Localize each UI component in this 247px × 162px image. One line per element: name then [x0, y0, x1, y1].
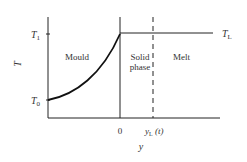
region-label-solid: Solid: [130, 52, 150, 62]
tick-label-t1: T1: [31, 29, 41, 42]
tick-label-yl: yL (t): [144, 126, 163, 137]
region-label-melt: Melt: [173, 52, 190, 62]
region-label-mould: Mould: [65, 52, 90, 62]
y-axis-label: T: [12, 60, 23, 67]
region-label-phase: phase: [130, 62, 151, 72]
tick-label-t0: T0: [31, 95, 41, 108]
tick-label-zero: 0: [118, 126, 123, 136]
mould-temperature-curve: [48, 34, 120, 100]
x-axis-label: y: [138, 141, 144, 152]
temperature-profile-diagram: T1 T0 TL T Mould Solid phase Melt 0 yL (…: [0, 0, 247, 162]
tick-label-tl: TL: [222, 28, 232, 41]
